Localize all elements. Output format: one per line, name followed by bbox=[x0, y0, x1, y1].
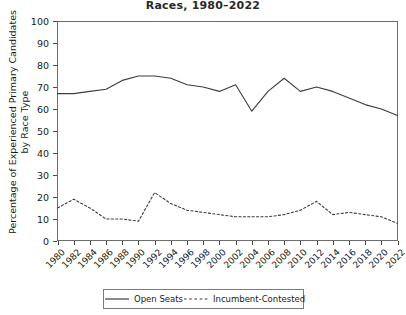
y-tick-mark bbox=[53, 241, 57, 242]
y-tick-label: 10 bbox=[19, 214, 49, 225]
y-tick-mark bbox=[53, 109, 57, 110]
y-tick-label: 70 bbox=[19, 82, 49, 93]
legend-swatch-dashed-icon bbox=[183, 295, 209, 303]
y-tick-mark bbox=[53, 43, 57, 44]
x-tick-mark bbox=[58, 241, 59, 245]
y-tick-label: 90 bbox=[19, 38, 49, 49]
chart-title: Races, 1980–2022 bbox=[0, 0, 406, 12]
x-tick-mark bbox=[74, 241, 75, 245]
series-line-incumbent-contested bbox=[58, 193, 398, 224]
legend-item-open-seats: Open Seats bbox=[104, 294, 183, 304]
x-tick-mark bbox=[90, 241, 91, 245]
x-tick-mark bbox=[349, 241, 350, 245]
x-tick-mark bbox=[268, 241, 269, 245]
plot-area bbox=[57, 21, 398, 241]
legend-item-incumbent-contested: Incumbent-Contested bbox=[183, 294, 305, 304]
x-tick-mark bbox=[365, 241, 366, 245]
x-tick-mark bbox=[333, 241, 334, 245]
y-tick-label: 60 bbox=[19, 104, 49, 115]
x-tick-mark bbox=[381, 241, 382, 245]
y-tick-label: 0 bbox=[19, 236, 49, 247]
y-tick-mark bbox=[53, 21, 57, 22]
x-tick-mark bbox=[203, 241, 204, 245]
x-tick-mark bbox=[300, 241, 301, 245]
x-tick-mark bbox=[317, 241, 318, 245]
chart-legend: Open Seats Incumbent-Contested bbox=[103, 289, 304, 309]
x-tick-mark bbox=[122, 241, 123, 245]
x-tick-mark bbox=[138, 241, 139, 245]
y-tick-mark bbox=[53, 65, 57, 66]
x-tick-mark bbox=[236, 241, 237, 245]
y-tick-mark bbox=[53, 87, 57, 88]
x-tick-mark bbox=[252, 241, 253, 245]
y-tick-label: 80 bbox=[19, 60, 49, 71]
series-line-open-seats bbox=[58, 76, 398, 116]
legend-label-incumbent-contested: Incumbent-Contested bbox=[213, 294, 305, 304]
y-tick-label: 40 bbox=[19, 148, 49, 159]
x-tick-mark bbox=[106, 241, 107, 245]
y-tick-mark bbox=[53, 175, 57, 176]
x-tick-mark bbox=[171, 241, 172, 245]
x-tick-mark bbox=[219, 241, 220, 245]
legend-swatch-solid-icon bbox=[104, 295, 130, 303]
y-tick-mark bbox=[53, 153, 57, 154]
y-tick-mark bbox=[53, 197, 57, 198]
y-tick-label: 30 bbox=[19, 170, 49, 181]
series-lines bbox=[57, 21, 398, 241]
legend-label-open-seats: Open Seats bbox=[134, 294, 183, 304]
y-tick-mark bbox=[53, 131, 57, 132]
x-tick-mark bbox=[155, 241, 156, 245]
x-tick-mark bbox=[284, 241, 285, 245]
x-tick-mark bbox=[187, 241, 188, 245]
x-tick-mark bbox=[398, 241, 399, 245]
chart-figure: Races, 1980–2022 Percentage of Experienc… bbox=[0, 0, 406, 315]
y-tick-mark bbox=[53, 219, 57, 220]
y-tick-label: 20 bbox=[19, 192, 49, 203]
y-tick-label: 100 bbox=[19, 16, 49, 27]
y-tick-label: 50 bbox=[19, 126, 49, 137]
